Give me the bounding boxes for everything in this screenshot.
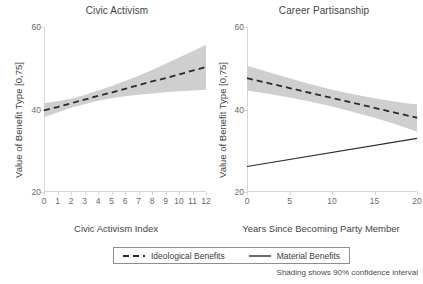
x-tick-mark [206, 192, 207, 195]
x-tick-label: 11 [188, 196, 197, 206]
panel-title-right: Career Partisanship [211, 5, 423, 16]
legend: Ideological BenefitsMaterial Benefits [113, 247, 350, 264]
x-tick-mark [139, 192, 140, 195]
x-tick-mark [44, 192, 45, 195]
x-axis-label-left: Civic Activism Index [0, 223, 212, 234]
legend-label: Material Benefits [277, 251, 340, 261]
x-tick-mark [71, 192, 72, 195]
x-tick-label: 1 [55, 196, 60, 206]
x-tick-label: 12 [201, 196, 210, 206]
x-tick-mark [152, 192, 153, 195]
figure: Civic Activism Value of Benefit Type [0,… [0, 0, 423, 284]
x-tick-mark [247, 192, 248, 195]
series-line [247, 138, 417, 166]
y-axis-label-left: Value of Benefit Type [0,75] [13, 62, 24, 178]
x-tick-mark [193, 192, 194, 195]
x-tick-mark [98, 192, 99, 195]
confidence-band [44, 45, 206, 118]
y-axis-label-right: Value of Benefit Type [0,75] [217, 62, 228, 178]
y-tick-label: 40 [32, 105, 41, 115]
y-tick-mark [41, 110, 44, 111]
x-tick-label: 3 [82, 196, 87, 206]
x-tick-label: 9 [163, 196, 168, 206]
x-tick-label: 6 [123, 196, 128, 206]
x-tick-mark [112, 192, 113, 195]
x-tick-label: 4 [96, 196, 101, 206]
dashed-line-icon [123, 253, 145, 259]
x-tick-label: 20 [412, 196, 421, 206]
x-tick-mark [417, 192, 418, 195]
x-tick-mark [85, 192, 86, 195]
x-tick-label: 15 [370, 196, 379, 206]
legend-entry: Material Benefits [249, 251, 340, 261]
y-tick-label: 40 [235, 105, 244, 115]
y-tick-mark [244, 27, 247, 28]
x-tick-label: 8 [150, 196, 155, 206]
x-tick-label: 0 [245, 196, 250, 206]
y-tick-mark [244, 110, 247, 111]
x-tick-mark [166, 192, 167, 195]
x-tick-label: 5 [287, 196, 292, 206]
x-tick-mark [332, 192, 333, 195]
x-tick-label: 2 [69, 196, 74, 206]
panel-title-left: Civic Activism [0, 5, 212, 16]
x-tick-mark [179, 192, 180, 195]
confidence-band [247, 66, 417, 132]
footnote: Shading shows 90% confidence interval [277, 268, 418, 277]
y-tick-label: 20 [235, 187, 244, 197]
y-tick-mark [41, 27, 44, 28]
x-tick-label: 7 [136, 196, 141, 206]
panel-civic-activism: Civic Activism Value of Benefit Type [0,… [0, 0, 212, 236]
x-tick-label: 5 [109, 196, 114, 206]
x-tick-label: 0 [42, 196, 47, 206]
x-tick-mark [125, 192, 126, 195]
y-tick-label: 20 [32, 187, 41, 197]
legend-label: Ideological Benefits [151, 251, 225, 261]
x-axis-label-right: Years Since Becoming Party Member [211, 223, 423, 234]
solid-line-icon [249, 253, 271, 259]
plot-svg-right [247, 27, 417, 192]
panel-career-partisanship: Career Partisanship Value of Benefit Typ… [211, 0, 423, 236]
x-tick-mark [58, 192, 59, 195]
x-tick-label: 10 [174, 196, 183, 206]
panel-container: Civic Activism Value of Benefit Type [0,… [0, 0, 423, 236]
x-tick-mark [375, 192, 376, 195]
y-tick-label: 60 [235, 22, 244, 32]
plot-svg-left [44, 27, 206, 192]
legend-entry: Ideological Benefits [123, 251, 225, 261]
x-tick-mark [290, 192, 291, 195]
x-tick-label: 10 [327, 196, 336, 206]
plot-area-left: 2040600123456789101112 [44, 27, 206, 192]
plot-area-right: 20406005101520 [247, 27, 417, 192]
y-tick-label: 60 [32, 22, 41, 32]
